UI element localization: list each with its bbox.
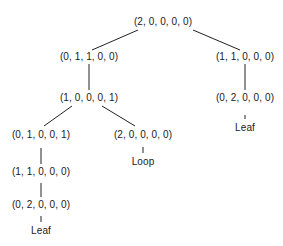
edge-root-to-01100 xyxy=(92,30,138,50)
node-11000-left: (1, 1, 0, 0, 0) xyxy=(12,166,70,178)
node-root: (2, 0, 0, 0, 0) xyxy=(134,16,192,28)
leaf-left: Leaf xyxy=(31,225,51,237)
leaf-right: Leaf xyxy=(235,122,255,134)
node-11000-right: (1, 1, 0, 0, 0) xyxy=(216,51,274,63)
node-02000-left: (0, 2, 0, 0, 0) xyxy=(12,199,70,211)
node-01001: (0, 1, 0, 0, 1) xyxy=(12,129,70,141)
edge-root-to-11000 xyxy=(193,30,240,50)
node-02000-right: (0, 2, 0, 0, 0) xyxy=(216,92,274,104)
node-20000: (2, 0, 0, 0, 0) xyxy=(114,129,172,141)
node-01100: (0, 1, 1, 0, 0) xyxy=(60,51,118,63)
loop-label: Loop xyxy=(132,156,155,168)
edge-10001-to-20000 xyxy=(102,106,135,126)
node-10001: (1, 0, 0, 0, 1) xyxy=(60,92,118,104)
edge-10001-to-01001 xyxy=(44,106,72,126)
